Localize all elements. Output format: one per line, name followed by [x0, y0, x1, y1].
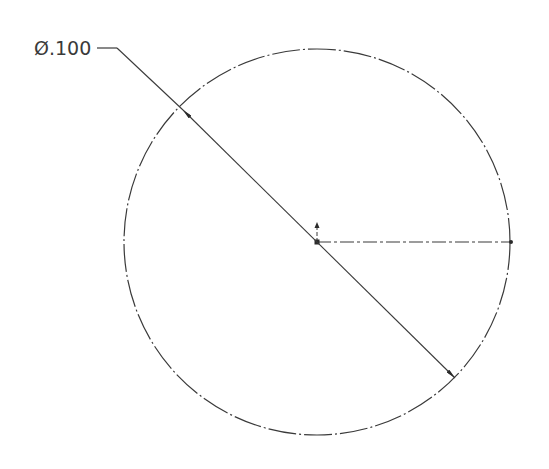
centerline-endpoint[interactable]: [509, 240, 513, 244]
drawing-canvas: Ø.100: [0, 0, 549, 469]
diameter-dimension-line[interactable]: [183, 110, 455, 378]
leader-line: [117, 48, 183, 110]
origin-arrow-up-icon: [315, 222, 320, 228]
dimension-label[interactable]: Ø.100: [34, 37, 91, 59]
